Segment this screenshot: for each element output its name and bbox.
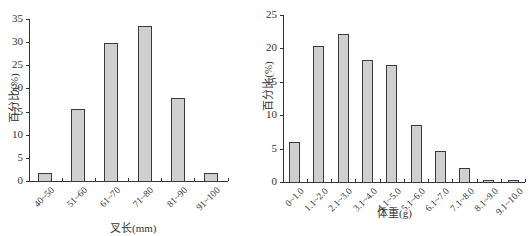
y-tick-label: 25: [257, 9, 277, 20]
x-tick: [477, 179, 478, 182]
x-tick: [428, 179, 429, 182]
bar: [289, 142, 300, 183]
bar: [362, 60, 373, 183]
bar: [459, 168, 470, 183]
y-tick: [280, 149, 283, 150]
x-tick-label: 3.1~4.0: [351, 186, 378, 213]
x-tick: [380, 179, 381, 182]
bar: [508, 180, 519, 183]
bar: [435, 151, 446, 183]
x-tick: [525, 179, 526, 182]
bar: [483, 180, 494, 183]
y-tick-label: 5: [257, 143, 277, 154]
bar: [386, 65, 397, 183]
y-axis: [283, 15, 284, 183]
y-tick: [280, 115, 283, 116]
y-tick: [280, 15, 283, 16]
y-tick: [280, 82, 283, 83]
x-tick-label: 2.1~3.0: [327, 186, 354, 213]
x-tick: [307, 179, 308, 182]
bar: [411, 125, 422, 183]
x-tick-label: 7.1~8.0: [448, 186, 475, 213]
x-tick: [404, 179, 405, 182]
y-axis-label: 百分比(%): [259, 51, 275, 121]
y-tick-label: 0: [257, 176, 277, 187]
x-tick-label: 6.1~7.0: [424, 186, 451, 213]
body-weight-chart: 05101520250~1.01.1~2.02.1~3.03.1~4.04.1~…: [0, 0, 528, 236]
x-tick: [501, 179, 502, 182]
y-tick: [280, 48, 283, 49]
y-tick: [280, 182, 283, 183]
x-tick: [331, 179, 332, 182]
x-tick: [355, 179, 356, 182]
bar: [338, 34, 349, 183]
x-tick-label: 1.1~2.0: [302, 186, 329, 213]
x-axis-label: 体重(g): [377, 204, 412, 220]
bar: [313, 46, 324, 183]
x-tick: [452, 179, 453, 182]
